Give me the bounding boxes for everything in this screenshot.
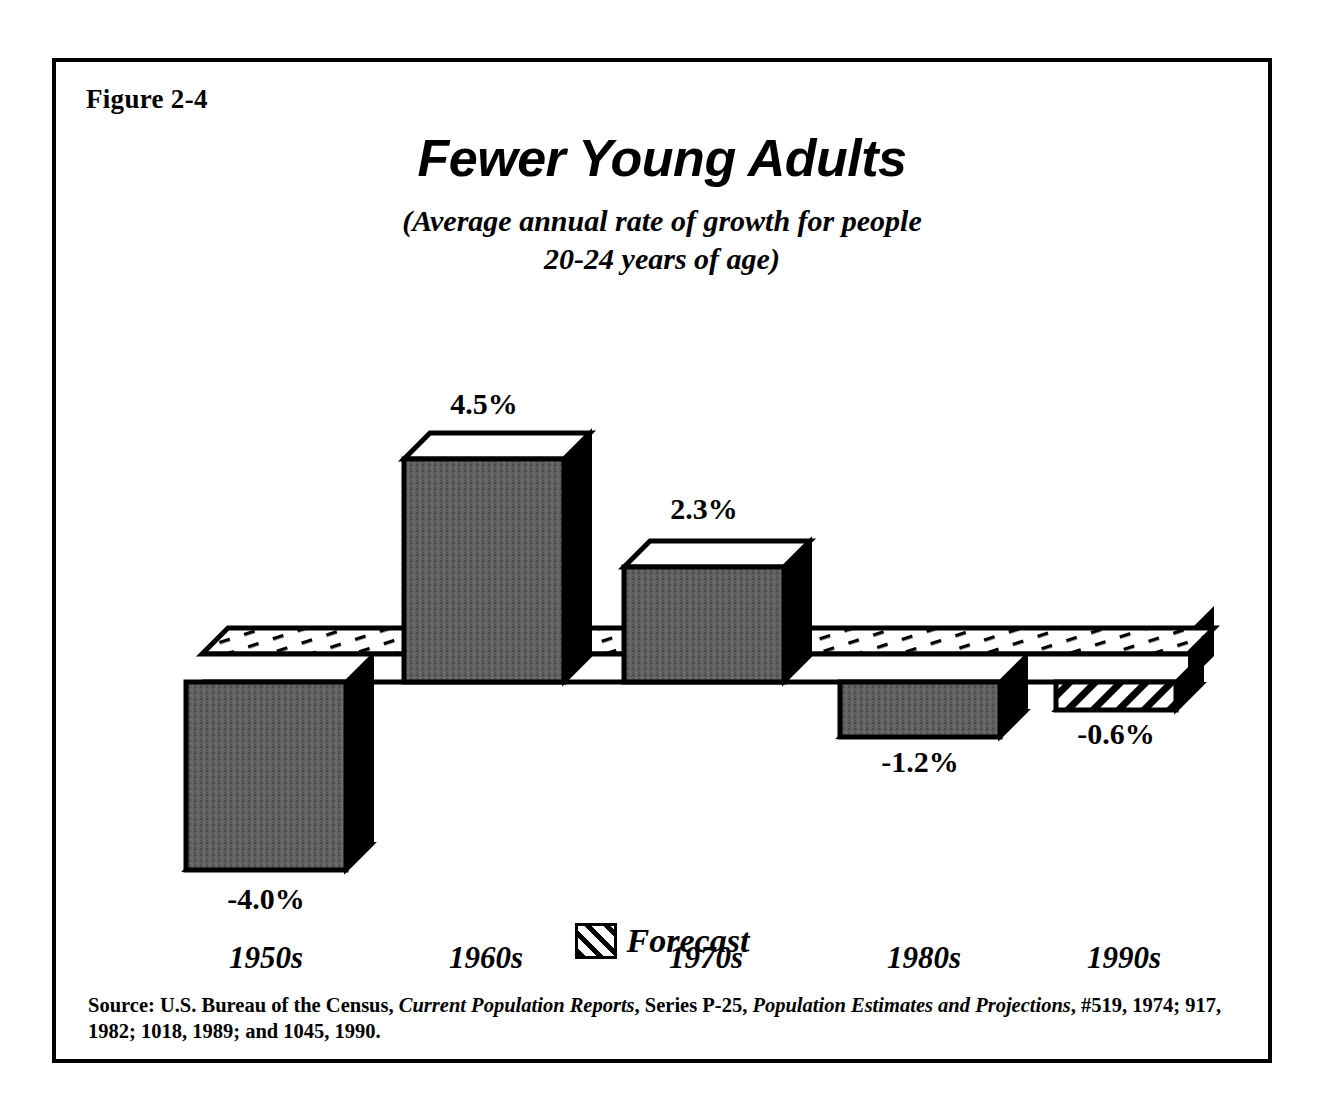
- value-label-1970s: 2.3%: [614, 492, 794, 526]
- value-label-1960s: 4.5%: [394, 387, 574, 421]
- diagonal-hatch-swatch-icon: [575, 923, 617, 959]
- plot-area: -4.0% 4.5% 2.3% -1.2% -0.6% 1950s 1960s …: [56, 62, 1268, 1067]
- figure-frame: Figure 2-4 Fewer Young Adults (Average a…: [52, 58, 1272, 1063]
- chart-legend: Forecast: [56, 922, 1268, 960]
- value-label-1950s: -4.0%: [176, 882, 356, 916]
- bar-1960s[interactable]: [404, 433, 590, 682]
- bar-1950s[interactable]: [186, 656, 372, 870]
- source-italic-title-2: Population Estimates and Projections: [752, 994, 1070, 1016]
- source-prefix: Source: U.S. Bureau of the Census,: [88, 994, 399, 1016]
- bar-1970s[interactable]: [624, 541, 810, 682]
- legend-label-forecast: Forecast: [627, 922, 750, 960]
- source-note: Source: U.S. Bureau of the Census, Curre…: [88, 992, 1228, 1044]
- value-label-1980s: -1.2%: [830, 745, 1010, 779]
- source-mid: , Series P-25,: [635, 994, 753, 1016]
- value-label-1990s: -0.6%: [1026, 717, 1206, 751]
- source-italic-title-1: Current Population Reports: [399, 994, 635, 1016]
- bar-chart-graphic: [56, 62, 1268, 1067]
